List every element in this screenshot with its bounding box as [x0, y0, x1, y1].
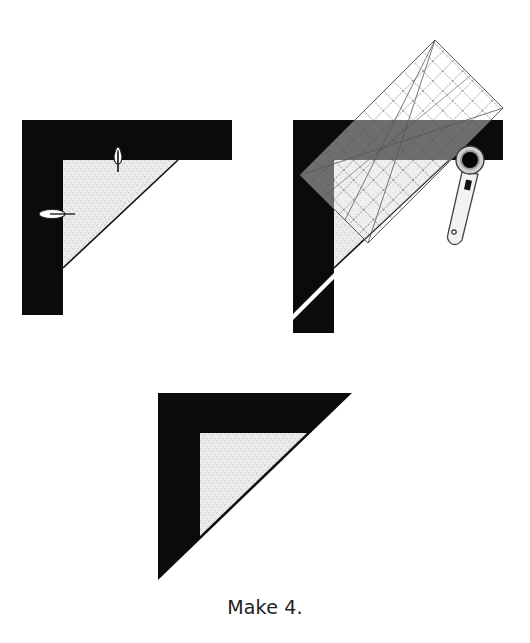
quilt-diagram-canvas — [0, 0, 530, 643]
step-2-figure — [293, 40, 506, 333]
step-3-figure — [158, 393, 352, 580]
rotary-cutter-icon — [448, 146, 485, 245]
finished-dark-triangle — [158, 393, 352, 580]
step-1-figure — [22, 120, 232, 315]
caption-make-count: Make 4. — [0, 596, 530, 618]
